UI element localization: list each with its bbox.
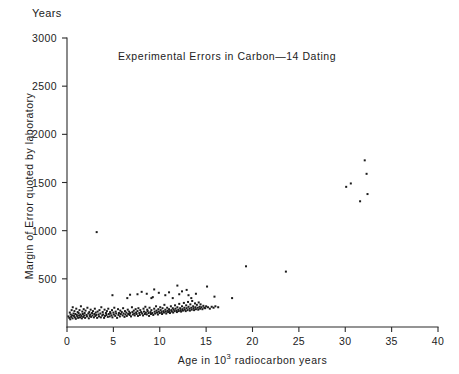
data-point [180, 311, 182, 313]
data-point [350, 182, 352, 184]
data-point [121, 311, 123, 313]
data-point [133, 313, 135, 315]
data-point [108, 313, 110, 315]
data-point [103, 317, 105, 319]
data-point [201, 308, 203, 310]
data-point [84, 317, 86, 319]
data-point [117, 308, 119, 310]
data-point [98, 309, 100, 311]
data-point [366, 173, 368, 175]
data-point [150, 297, 152, 299]
data-point [193, 307, 195, 309]
data-point [111, 309, 113, 311]
data-point [88, 317, 90, 319]
data-point [187, 309, 189, 311]
data-point [155, 305, 157, 307]
data-point [102, 313, 104, 315]
data-point [86, 307, 88, 309]
data-point [126, 315, 128, 317]
data-point [157, 313, 159, 315]
x-axis-tick-label: 5 [110, 335, 116, 347]
data-point [115, 313, 117, 315]
data-point [100, 316, 102, 318]
data-point [105, 312, 107, 314]
data-point [113, 307, 115, 309]
data-point [199, 306, 201, 308]
data-point [188, 308, 190, 310]
data-point [198, 301, 200, 303]
data-point [100, 306, 102, 308]
data-point [148, 312, 150, 314]
data-point [120, 313, 122, 315]
data-point [142, 314, 144, 316]
data-point [109, 315, 111, 317]
data-point [168, 308, 170, 310]
data-point [217, 306, 219, 308]
data-point [197, 309, 199, 311]
data-point [102, 311, 104, 313]
data-point [69, 312, 71, 314]
data-point [207, 306, 209, 308]
x-axis-tick-label: 40 [432, 335, 444, 347]
x-axis-tick-label: 10 [154, 335, 166, 347]
data-point [139, 314, 141, 316]
x-axis-tick-label: 30 [339, 335, 351, 347]
data-point [165, 313, 167, 315]
data-point [345, 186, 347, 188]
data-point [111, 314, 113, 316]
data-point [149, 307, 151, 309]
data-point [80, 315, 82, 317]
data-point [163, 304, 165, 306]
data-point [156, 310, 158, 312]
data-point [112, 312, 114, 314]
y-axis-tick-label: 2000 [32, 128, 57, 140]
data-point [189, 303, 191, 305]
data-point [159, 312, 161, 314]
data-point [91, 312, 93, 314]
data-point [99, 313, 101, 315]
data-point [141, 291, 143, 293]
data-point [192, 305, 194, 307]
data-point [92, 314, 94, 316]
data-point [69, 318, 71, 320]
data-point [197, 307, 199, 309]
data-point [170, 305, 172, 307]
data-point [75, 318, 77, 320]
data-point [137, 315, 139, 317]
data-point [84, 312, 86, 314]
data-point [174, 310, 176, 312]
data-point [71, 314, 73, 316]
data-point [204, 307, 206, 309]
data-point [179, 307, 181, 309]
y-axis-tick-label: 1500 [32, 177, 57, 189]
data-point [176, 285, 178, 287]
data-point [151, 312, 153, 314]
data-point [188, 294, 190, 296]
data-point [178, 303, 180, 305]
data-point [153, 308, 155, 310]
x-axis-tick-label: 15 [200, 335, 212, 347]
data-point [122, 307, 124, 309]
data-point [71, 309, 73, 311]
data-point [126, 297, 128, 299]
data-point [185, 304, 187, 306]
data-point [144, 306, 146, 308]
data-point [114, 315, 116, 317]
carbon-14-dating-scatter-figure: Years Experimental Errors in Carbon—14 D… [0, 0, 459, 374]
data-point [127, 309, 129, 311]
data-point [119, 315, 121, 317]
y-axis-tick-label: 3000 [32, 32, 57, 44]
data-point [156, 312, 158, 314]
data-point [77, 317, 79, 319]
data-point [209, 308, 211, 310]
data-point [136, 313, 138, 315]
data-point [107, 316, 109, 318]
data-point [188, 306, 190, 308]
data-point [92, 310, 94, 312]
data-point [178, 310, 180, 312]
data-point [193, 309, 195, 311]
data-point [94, 308, 96, 310]
data-point [139, 309, 141, 311]
data-point [191, 300, 193, 302]
data-point [202, 305, 204, 307]
